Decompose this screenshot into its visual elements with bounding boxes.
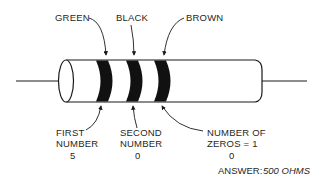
arrow-green	[89, 18, 106, 55]
answer-value: 500 OHMS	[263, 165, 311, 176]
arrow-number-of-zeros	[162, 106, 203, 131]
svg-text:NUMBER: NUMBER	[120, 138, 162, 149]
label-green: GREEN	[55, 12, 90, 23]
label-brown: BROWN	[186, 12, 223, 23]
answer-label: ANSWER:	[218, 165, 262, 176]
svg-text:SECOND: SECOND	[120, 127, 162, 138]
svg-text:NUMBER: NUMBER	[56, 138, 98, 149]
label-black: BLACK	[116, 12, 149, 23]
arrow-black	[131, 25, 134, 55]
resistor-diagram: GREEN BLACK BROWN FIRST NUMBER 5 SECOND …	[0, 0, 324, 177]
arrow-brown	[164, 18, 184, 55]
svg-text:ZEROS = 1: ZEROS = 1	[207, 138, 258, 149]
svg-text:5: 5	[70, 150, 75, 161]
caption-second-number: SECOND NUMBER 0	[120, 127, 162, 161]
svg-text:FIRST: FIRST	[56, 127, 84, 138]
svg-text:0: 0	[229, 150, 234, 161]
svg-text:NUMBER OF: NUMBER OF	[207, 127, 266, 138]
svg-text:0: 0	[135, 150, 140, 161]
caption-first-number: FIRST NUMBER 5	[56, 127, 98, 161]
caption-number-of-zeros: NUMBER OF ZEROS = 1 0	[207, 127, 266, 161]
arrow-second-number	[133, 106, 137, 128]
resistor-end-cap	[59, 60, 74, 102]
arrow-first-number	[86, 106, 101, 130]
